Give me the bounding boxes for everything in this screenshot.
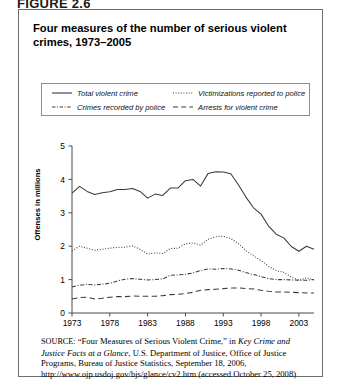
legend-line-solid-icon xyxy=(52,89,72,97)
svg-text:1998: 1998 xyxy=(252,318,271,327)
svg-text:1988: 1988 xyxy=(176,318,195,327)
legend-row: Total violent crime Victimizations repor… xyxy=(42,86,309,100)
svg-text:1978: 1978 xyxy=(100,318,119,327)
source-text-1: “Four Measures of Serious Violent Crime,… xyxy=(76,336,238,346)
svg-text:3: 3 xyxy=(60,208,65,218)
legend-label: Crimes recorded by police xyxy=(77,103,165,112)
svg-text:1993: 1993 xyxy=(214,318,233,327)
svg-text:1983: 1983 xyxy=(138,318,157,327)
legend-item-total-violent-crime: Total violent crime xyxy=(42,89,169,98)
plot-area: Offenses in millions 0123451973197819831… xyxy=(19,122,324,327)
series-line xyxy=(72,172,314,251)
chart-title: Four measures of the number of serious v… xyxy=(33,21,308,49)
svg-text:2003: 2003 xyxy=(290,318,309,327)
legend-line-dotted-icon xyxy=(173,89,193,97)
legend-line-dashdot-icon xyxy=(52,103,72,111)
series-line xyxy=(72,288,314,299)
svg-text:5: 5 xyxy=(60,141,65,151)
series-line xyxy=(72,269,314,287)
legend-label: Arrests for violent crime xyxy=(198,103,278,112)
line-chart-svg: 0123451973197819831988199319982003 xyxy=(19,122,324,327)
legend-label: Victimizations reported to police xyxy=(198,89,305,98)
legend-item-victimizations-reported-to-police: Victimizations reported to police xyxy=(169,89,309,98)
legend-item-arrests-for-violent-crime: Arrests for violent crime xyxy=(169,103,309,112)
figure-container: Four measures of the number of serious v… xyxy=(18,9,323,377)
svg-text:2: 2 xyxy=(60,241,65,251)
legend-line-longdash-icon xyxy=(173,103,193,111)
chart-legend: Total violent crime Victimizations repor… xyxy=(41,83,310,116)
legend-label: Total violent crime xyxy=(77,89,138,98)
svg-text:4: 4 xyxy=(60,175,65,185)
series-line xyxy=(72,236,314,280)
svg-text:0: 0 xyxy=(60,308,65,318)
legend-item-crimes-recorded-by-police: Crimes recorded by police xyxy=(42,103,169,112)
source-note: SOURCE: “Four Measures of Serious Violen… xyxy=(41,336,313,379)
svg-text:1: 1 xyxy=(60,275,65,285)
legend-row: Crimes recorded by police Arrests for vi… xyxy=(42,100,309,114)
source-prefix: SOURCE: xyxy=(41,337,76,346)
svg-text:1973: 1973 xyxy=(63,318,82,327)
